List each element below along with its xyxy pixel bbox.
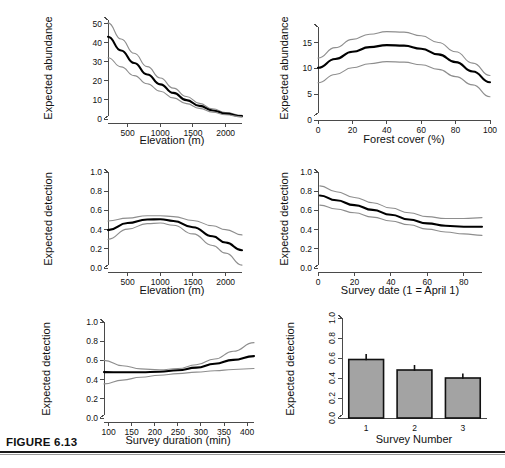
caption-rule bbox=[0, 451, 505, 453]
y-tick-label: 5 bbox=[307, 89, 312, 99]
y-tick-label: 0.4 bbox=[327, 372, 337, 384]
x-axis-title-abundance-elevation: Elevation (m) bbox=[140, 134, 205, 146]
curves-detection-survey-date bbox=[320, 186, 482, 235]
y-tick-label: 0.4 bbox=[90, 225, 102, 235]
y-tick-label: 1.0 bbox=[90, 167, 102, 177]
chart-detection-survey-number: 0.00.20.40.60.81.0 123 Survey Number Exp… bbox=[272, 305, 500, 447]
y-tick-label: 50 bbox=[93, 19, 103, 29]
y-tick-label: 0.6 bbox=[90, 205, 102, 215]
panel-abundance-elevation: 01020304050 500100015002000 Elevation (m… bbox=[32, 4, 247, 146]
x-tick-label: 0 bbox=[316, 125, 321, 135]
figure-sheet: 01020304050 500100015002000 Elevation (m… bbox=[0, 0, 505, 468]
y-tick-label: 0.2 bbox=[300, 244, 312, 254]
chart-abundance-forest-cover: 051015 020406080100 Forest cover (%) Exp… bbox=[272, 4, 500, 146]
y-tick-label: 0.6 bbox=[327, 352, 337, 364]
y-axis-detection-elevation bbox=[104, 169, 108, 268]
y-tick-label: 15 bbox=[303, 38, 313, 48]
bar bbox=[397, 370, 432, 418]
curve-expected bbox=[108, 219, 242, 250]
y-tick-label: 0.2 bbox=[90, 244, 102, 254]
y-tick-label: 0.2 bbox=[327, 392, 337, 404]
curve-confidence-interval bbox=[108, 23, 242, 116]
chart-abundance-elevation: 01020304050 500100015002000 Elevation (m… bbox=[32, 4, 247, 146]
y-tick-labels-abundance-elevation: 01020304050 bbox=[93, 19, 108, 124]
curve-confidence-interval bbox=[104, 343, 254, 370]
y-tick-label: 1.0 bbox=[300, 167, 312, 177]
panel-grid: 01020304050 500100015002000 Elevation (m… bbox=[0, 0, 505, 430]
curves-abundance-elevation bbox=[108, 23, 242, 117]
y-axis-detection-survey-number bbox=[338, 315, 342, 418]
panel-detection-survey-duration: 0.00.20.40.60.81.0 100150200250300350400… bbox=[32, 305, 260, 447]
y-tick-labels-detection-elevation: 0.00.20.40.60.81.0 bbox=[90, 167, 108, 273]
y-tick-label: 0.6 bbox=[86, 355, 98, 365]
caption-rule-secondary bbox=[0, 454, 505, 455]
y-tick-label: 1.0 bbox=[86, 317, 98, 327]
panel-detection-elevation: 0.00.20.40.60.81.0 500100015002000 Eleva… bbox=[32, 155, 247, 297]
y-tick-label: 0.0 bbox=[327, 412, 337, 424]
y-tick-label: 0.6 bbox=[300, 205, 312, 215]
x-axis-title-detection-survey-date: Survey date (1 = April 1) bbox=[341, 284, 459, 296]
curves-detection-survey-duration bbox=[104, 343, 254, 384]
x-tick-label: 80 bbox=[459, 277, 469, 287]
figure-caption-label: FIGURE 6.13 bbox=[0, 432, 505, 451]
bar bbox=[445, 378, 480, 418]
chart-detection-survey-date: 0.00.20.40.60.81.0 020406080 Survey date… bbox=[272, 155, 500, 297]
y-tick-label: 20 bbox=[93, 76, 103, 86]
y-axis-abundance-elevation bbox=[104, 17, 108, 119]
y-axis-title-detection-survey-number: Expected detection bbox=[284, 322, 296, 416]
y-tick-labels-detection-survey-date: 0.00.20.40.60.81.0 bbox=[300, 167, 318, 273]
y-tick-labels-detection-survey-duration: 0.00.20.40.60.81.0 bbox=[86, 317, 104, 423]
y-tick-label: 0.4 bbox=[86, 375, 98, 385]
x-tick-label: 500 bbox=[121, 128, 135, 138]
y-tick-label: 0.8 bbox=[86, 336, 98, 346]
x-axis-title-abundance-forest-cover: Forest cover (%) bbox=[363, 133, 444, 145]
bar bbox=[349, 360, 384, 419]
y-axis-detection-survey-date bbox=[314, 169, 318, 268]
curves-abundance-forest-cover bbox=[318, 32, 490, 97]
y-tick-label: 0.8 bbox=[300, 186, 312, 196]
y-tick-label: 0.0 bbox=[86, 413, 98, 423]
x-axis-title-detection-elevation: Elevation (m) bbox=[140, 284, 205, 296]
y-tick-label: 0.2 bbox=[86, 394, 98, 404]
curve-confidence-interval bbox=[320, 205, 482, 235]
x-tick-label: 20 bbox=[348, 125, 358, 135]
y-tick-label: 10 bbox=[93, 95, 103, 105]
y-axis-title-detection-survey-date: Expected detection bbox=[278, 172, 290, 266]
y-tick-label: 0.0 bbox=[300, 263, 312, 273]
y-tick-label: 0 bbox=[307, 115, 312, 125]
y-tick-label: 1.0 bbox=[327, 312, 337, 324]
curve-confidence-interval bbox=[318, 32, 490, 76]
y-tick-label: 0.8 bbox=[327, 332, 337, 344]
y-tick-label: 30 bbox=[93, 57, 103, 67]
y-tick-labels-detection-survey-number: 0.00.20.40.60.81.0 bbox=[327, 312, 342, 424]
x-tick-label: 0 bbox=[316, 277, 321, 287]
y-axis-detection-survey-duration bbox=[100, 319, 104, 418]
y-tick-label: 0.4 bbox=[300, 225, 312, 235]
panel-detection-survey-date: 0.00.20.40.60.81.0 020406080 Survey date… bbox=[272, 155, 500, 297]
x-tick-label: 100 bbox=[483, 125, 497, 135]
x-tick-label: 80 bbox=[451, 125, 461, 135]
x-tick-label: 2000 bbox=[216, 277, 235, 287]
curve-expected bbox=[318, 45, 490, 82]
chart-detection-survey-duration: 0.00.20.40.60.81.0 100150200250300350400… bbox=[32, 305, 260, 447]
y-axis-title-detection-elevation: Expected detection bbox=[42, 172, 54, 266]
y-tick-label: 0.0 bbox=[90, 263, 102, 273]
x-tick-label: 2000 bbox=[216, 128, 235, 138]
curve-confidence-interval bbox=[108, 58, 242, 117]
bars-detection-survey-number bbox=[349, 354, 480, 418]
chart-detection-elevation: 0.00.20.40.60.81.0 500100015002000 Eleva… bbox=[32, 155, 247, 297]
panel-detection-survey-number: 0.00.20.40.60.81.0 123 Survey Number Exp… bbox=[272, 305, 500, 447]
y-tick-label: 0 bbox=[97, 114, 102, 124]
figure-caption-block: FIGURE 6.13 bbox=[0, 432, 505, 455]
y-axis-title-detection-survey-duration: Expected detection bbox=[40, 322, 52, 416]
curves-detection-elevation bbox=[108, 216, 242, 265]
y-tick-label: 40 bbox=[93, 38, 103, 48]
y-axis-abundance-forest-cover bbox=[314, 24, 318, 116]
panel-abundance-forest-cover: 051015 020406080100 Forest cover (%) Exp… bbox=[272, 4, 500, 146]
y-tick-labels-abundance-forest-cover: 051015 bbox=[303, 38, 318, 126]
y-axis-title-abundance-elevation: Expected abundance bbox=[42, 16, 54, 119]
y-tick-label: 0.8 bbox=[90, 186, 102, 196]
x-tick-label: 500 bbox=[121, 277, 135, 287]
curve-expected bbox=[108, 37, 242, 116]
y-axis-title-abundance-forest-cover: Expected abundance bbox=[278, 16, 290, 119]
